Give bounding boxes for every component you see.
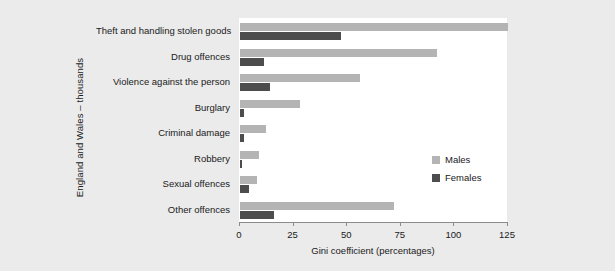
chart-legend: MalesFemales <box>432 154 481 190</box>
y-axis-category-label: Burglary <box>96 103 230 113</box>
x-axis-tick-label: 25 <box>287 229 298 240</box>
bar-females <box>240 185 249 193</box>
bar-males <box>240 151 259 159</box>
legend-label: Females <box>445 172 481 183</box>
y-axis-category-label: Robbery <box>96 154 230 164</box>
bar-females <box>240 160 242 168</box>
bar-group <box>240 100 506 118</box>
x-axis-tick <box>293 222 294 226</box>
y-axis-category-label: Other offences <box>96 205 230 215</box>
bar-group <box>240 23 506 41</box>
bar-males <box>240 23 508 31</box>
x-axis-title: Gini coefficient (percentages) <box>239 245 507 256</box>
bar-males <box>240 125 266 133</box>
bar-group <box>240 125 506 143</box>
bar-females <box>240 134 244 142</box>
bar-females <box>240 109 244 117</box>
x-axis-tick-label: 50 <box>341 229 352 240</box>
bar-males <box>240 202 394 210</box>
legend-item-females: Females <box>432 172 481 183</box>
bar-males <box>240 74 360 82</box>
x-axis-tick-label: 75 <box>395 229 406 240</box>
legend-label: Males <box>445 154 470 165</box>
x-axis-tick-label: 125 <box>499 229 515 240</box>
x-axis-tick <box>400 222 401 226</box>
x-axis-tick-label: 100 <box>445 229 461 240</box>
bar-group <box>240 74 506 92</box>
chart-figure: England and Wales – thousands Theft and … <box>0 0 615 271</box>
bar-females <box>240 32 341 40</box>
legend-swatch-icon <box>432 156 440 164</box>
bar-females <box>240 211 274 219</box>
bar-group <box>240 49 506 67</box>
bar-males <box>240 176 257 184</box>
bar-males <box>240 49 437 57</box>
legend-item-males: Males <box>432 154 481 165</box>
y-axis-category-label: Criminal damage <box>96 128 230 138</box>
plot-area <box>239 18 507 222</box>
x-axis-tick <box>346 222 347 226</box>
x-axis-tick <box>239 222 240 226</box>
y-axis-title: England and Wales – thousands <box>74 28 85 228</box>
bar-males <box>240 100 300 108</box>
y-axis-category-label: Theft and handling stolen goods <box>96 26 230 36</box>
bar-group <box>240 202 506 220</box>
x-axis-tick <box>507 222 508 226</box>
bar-females <box>240 58 264 66</box>
x-axis-tick-label: 0 <box>236 229 241 240</box>
y-axis-category-label: Drug offences <box>96 52 230 62</box>
y-axis-category-labels: Theft and handling stolen goodsDrug offe… <box>100 18 234 222</box>
bar-females <box>240 83 270 91</box>
legend-swatch-icon <box>432 174 440 182</box>
x-axis-line <box>239 222 507 223</box>
y-axis-category-label: Sexual offences <box>96 179 230 189</box>
y-axis-category-label: Violence against the person <box>96 77 230 87</box>
x-axis-tick <box>453 222 454 226</box>
